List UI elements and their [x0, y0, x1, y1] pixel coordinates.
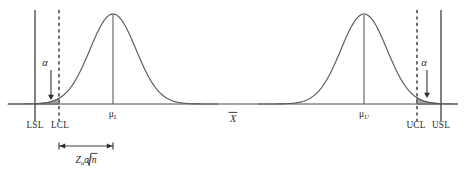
upper-mean-subscript: U — [364, 113, 369, 120]
distribution-diagram-svg: α α μL μU X LSL LCL UCL USL — [0, 0, 466, 170]
x-axis-label-group: X — [229, 112, 238, 124]
ucl-label: UCL — [406, 120, 425, 130]
limit-labels-group: LSL LCL UCL USL — [26, 120, 450, 130]
formula-radicand: n — [92, 154, 97, 165]
dimension-bar-group: Zασ/n — [59, 142, 113, 166]
x-axis-label: X — [229, 113, 237, 124]
lower-distribution-group — [8, 14, 218, 104]
alpha-right-arrow-head-icon — [424, 93, 430, 98]
dimension-right-arrow-icon — [107, 143, 113, 148]
mean-labels-group: μL μU — [109, 108, 370, 120]
lower-mean-subscript: L — [113, 113, 118, 120]
alpha-left-label: α — [42, 57, 48, 68]
upper-mean-label: μU — [359, 108, 369, 120]
lsl-label: LSL — [26, 120, 43, 130]
lcl-label: LCL — [51, 120, 69, 130]
dimension-formula-label: Zασ/n — [76, 154, 97, 166]
alpha-left-arrow-head-icon — [48, 95, 54, 100]
usl-label: USL — [432, 120, 450, 130]
capability-diagram-figure: α α μL μU X LSL LCL UCL USL — [0, 0, 466, 170]
alpha-right-label: α — [421, 57, 427, 68]
dimension-left-arrow-icon — [60, 143, 66, 148]
lower-mean-label: μL — [109, 108, 118, 120]
alpha-left-annotation: α — [42, 57, 54, 100]
alpha-right-annotation: α — [421, 57, 430, 98]
